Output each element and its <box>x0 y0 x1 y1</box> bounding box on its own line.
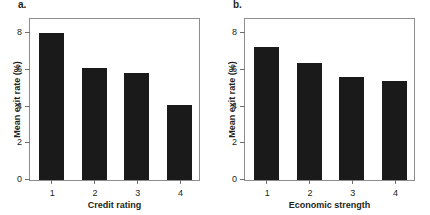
panel-b-y-tick-label: 4 <box>232 100 237 113</box>
panel-a-x-tick-label: 3 <box>125 187 151 199</box>
panel-b-x-tick-label: 1 <box>254 187 280 199</box>
panel-a-y-tick-label: 6 <box>17 63 22 76</box>
panel-a-y-tick: 6 <box>25 69 30 70</box>
panel-b-x-tick-label: 4 <box>383 187 409 199</box>
panel-b-bar <box>382 81 407 180</box>
panel-a-x-tick: 3 <box>137 180 138 184</box>
panel-b-x-tick-label: 3 <box>340 187 366 199</box>
panel-b-bar <box>254 47 279 180</box>
panel-b-x-tick: 4 <box>395 180 396 184</box>
panel-b-x-tick-label: 2 <box>297 187 323 199</box>
panel-a-x-tick: 1 <box>51 180 52 184</box>
panel-b-y-tick-label: 0 <box>232 173 237 186</box>
panel-b-y-tick: 0 <box>240 179 245 180</box>
panel-b: b. Mean exit rate (%) 024681234 Economic… <box>215 0 430 215</box>
panel-a-letter: a. <box>18 0 26 11</box>
panel-b-x-tick: 1 <box>266 180 267 184</box>
panel-b-x-tick: 3 <box>352 180 353 184</box>
panel-b-x-axis-title: Economic strength <box>244 199 415 211</box>
panel-b-x-tick: 2 <box>309 180 310 184</box>
panel-a-x-tick-label: 1 <box>39 187 65 199</box>
panel-a-y-tick-label: 2 <box>17 136 22 149</box>
panel-a-x-tick: 2 <box>94 180 95 184</box>
panel-a-y-tick-label: 4 <box>17 100 22 113</box>
panel-a-y-tick: 2 <box>25 142 30 143</box>
panel-a-x-tick: 4 <box>180 180 181 184</box>
panel-a-x-axis-title: Credit rating <box>29 199 200 211</box>
panel-b-bar <box>297 63 322 180</box>
figure: a. Mean exit rate (%) 024681234 Credit r… <box>0 0 430 215</box>
panel-a-y-tick: 8 <box>25 32 30 33</box>
panel-a-bar <box>82 68 107 180</box>
panel-a-y-tick-label: 8 <box>17 26 22 39</box>
panel-b-y-tick-label: 2 <box>232 136 237 149</box>
panel-b-y-tick-label: 8 <box>232 26 237 39</box>
panel-a-y-tick: 0 <box>25 179 30 180</box>
panel-b-y-tick: 6 <box>240 69 245 70</box>
panel-a-x-tick-label: 4 <box>168 187 194 199</box>
panel-b-y-tick: 8 <box>240 32 245 33</box>
panel-b-y-tick-label: 6 <box>232 63 237 76</box>
panel-b-bars <box>245 19 414 180</box>
panel-b-plot-area: 024681234 <box>244 18 415 181</box>
panel-a-bar <box>39 33 64 180</box>
panel-a-bar <box>167 105 192 180</box>
panel-a-y-tick: 4 <box>25 106 30 107</box>
panel-b-y-tick: 4 <box>240 106 245 107</box>
panel-a-x-tick-label: 2 <box>82 187 108 199</box>
panel-a-y-tick-label: 0 <box>17 173 22 186</box>
panel-a-bars <box>30 19 199 180</box>
panel-a-bar <box>124 73 149 180</box>
panel-b-letter: b. <box>233 0 242 11</box>
panel-a-plot-area: 024681234 <box>29 18 200 181</box>
panel-b-bar <box>339 77 364 180</box>
panel-a: a. Mean exit rate (%) 024681234 Credit r… <box>0 0 215 215</box>
panel-b-y-tick: 2 <box>240 142 245 143</box>
